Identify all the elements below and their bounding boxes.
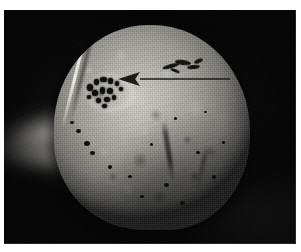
- foramen: [204, 111, 207, 113]
- foramen: [150, 143, 153, 146]
- foramen: [84, 141, 90, 146]
- foramen: [164, 183, 169, 187]
- lesion-pit: [107, 88, 113, 94]
- foramen: [76, 129, 81, 133]
- lesion-streak: [187, 64, 200, 69]
- foramen: [128, 175, 132, 178]
- surface-fissure: [161, 121, 176, 183]
- lesion-pit: [115, 81, 119, 86]
- foramen: [174, 117, 177, 120]
- photograph-plate: [4, 10, 296, 244]
- surface-texture-shadows: [54, 25, 250, 230]
- foramen: [196, 151, 200, 154]
- figure-caption: [0, 16, 1, 17]
- lesion-cluster: [85, 75, 133, 109]
- lesion-pit: [112, 95, 116, 100]
- bone-specimen: [54, 25, 250, 230]
- lesion-pit: [87, 95, 91, 99]
- surface-texture-highlights: [54, 25, 250, 230]
- foramen: [90, 151, 95, 155]
- lesion-pit: [100, 87, 105, 94]
- lesion-pit: [100, 77, 107, 82]
- foramen: [222, 141, 225, 144]
- lesion-pit: [92, 90, 98, 96]
- lesion-pit: [104, 97, 110, 102]
- lesion-pit: [108, 78, 113, 84]
- foramen: [140, 195, 144, 198]
- surface-pitting-field: [54, 25, 250, 230]
- foramen: [180, 201, 185, 205]
- foramen: [212, 175, 216, 179]
- figure-description: Grayscale close-up photograph of a round…: [0, 16, 1, 17]
- figure-root: Grayscale close-up photograph of a round…: [0, 0, 301, 252]
- lesion-pit: [119, 87, 123, 91]
- lesion-pit: [96, 98, 101, 103]
- lesion-pit: [102, 104, 107, 108]
- lesion-pit: [94, 79, 99, 85]
- lesion-streak: [194, 57, 204, 64]
- lesion-secondary: [162, 57, 208, 77]
- foramen: [70, 121, 74, 124]
- surface-grain: [54, 25, 250, 230]
- lesion-streak: [170, 67, 180, 74]
- foramen: [108, 165, 112, 169]
